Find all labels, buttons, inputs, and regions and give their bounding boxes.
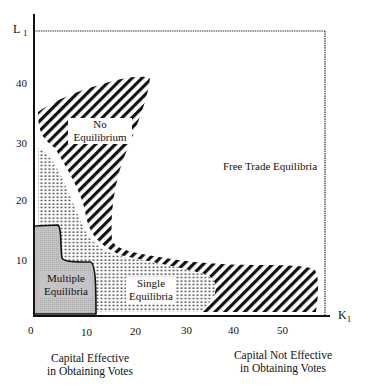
x-tick-0: 0 — [28, 324, 34, 336]
single-equilibria-label: Single Equilibria — [126, 277, 176, 303]
y-tick-20: 20 — [16, 194, 27, 206]
x-tick-20: 20 — [130, 325, 141, 337]
x-axis-label: K1 — [338, 308, 351, 324]
x-tick-10: 10 — [81, 326, 92, 338]
y-tick-10: 10 — [16, 254, 27, 266]
caption-capital-effective: Capital Effective in Obtaining Votes — [30, 352, 150, 378]
y-tick-40: 40 — [16, 77, 27, 89]
x-tick-30: 30 — [181, 324, 192, 336]
x-tick-50: 50 — [277, 324, 288, 336]
multiple-equilibria-label: Multiple Equilibria — [40, 272, 92, 298]
caption-capital-not-effective: Capital Not Effective in Obtaining Votes — [218, 349, 348, 375]
x-tick-40: 40 — [228, 324, 239, 336]
free-trade-label: Free Trade Equilibria — [210, 160, 330, 173]
no-equilibrium-label: No Equilibrium — [68, 118, 132, 144]
y-axis-label: L 1 — [13, 22, 27, 38]
y-tick-30: 30 — [16, 137, 27, 149]
